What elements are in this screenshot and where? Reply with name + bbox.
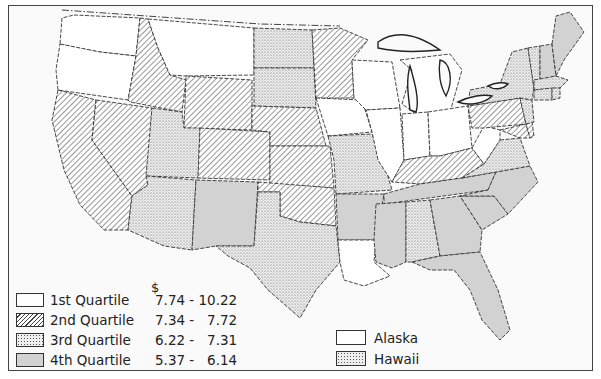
state-CO xyxy=(198,128,270,180)
state-KS xyxy=(270,146,334,188)
legend-label: 3rd Quartile xyxy=(50,332,155,348)
currency-symbol: $ xyxy=(151,280,159,295)
state-WY xyxy=(184,76,252,130)
hatched-swatch-icon xyxy=(16,313,44,327)
legend-label: 2nd Quartile xyxy=(50,312,155,328)
dotted-swatch-icon xyxy=(336,351,366,366)
blank-swatch-icon xyxy=(336,330,366,345)
legend-item-q2: 2nd Quartile 7.34 - 7.72 xyxy=(16,310,237,330)
state-WI xyxy=(352,60,400,110)
dotted-swatch-icon xyxy=(16,333,44,347)
legend-label: Hawaii xyxy=(374,351,419,367)
state-NM xyxy=(192,180,258,250)
blank-swatch-icon xyxy=(16,293,44,307)
state-ND xyxy=(254,28,314,68)
inset-legend: Alaska Hawaii xyxy=(336,327,419,369)
legend-label: Alaska xyxy=(374,330,418,346)
state-MS xyxy=(374,202,406,268)
legend-label: 4th Quartile xyxy=(50,352,155,368)
legend-range: 7.34 - 7.72 xyxy=(155,312,237,328)
state-SD xyxy=(254,68,316,108)
state-OH xyxy=(428,106,472,156)
legend-label: 1st Quartile xyxy=(50,292,155,308)
legend-item-q4: 4th Quartile 5.37 - 6.14 xyxy=(16,350,237,370)
legend-item-alaska: Alaska xyxy=(336,327,419,348)
state-CT xyxy=(534,88,552,100)
legend-item-q3: 3rd Quartile 6.22 - 7.31 xyxy=(16,330,237,350)
state-IN xyxy=(402,112,430,160)
legend-range: 7.74 - 10.22 xyxy=(155,292,237,308)
legend-range: 6.22 - 7.31 xyxy=(155,332,237,348)
state-ME xyxy=(552,12,584,76)
quartile-legend: $ 1st Quartile 7.74 - 10.22 2nd Quartile… xyxy=(16,290,237,370)
state-RI xyxy=(552,88,560,100)
legend-range: 5.37 - 6.14 xyxy=(155,352,237,368)
state-FL xyxy=(412,252,510,340)
legend-item-q1: 1st Quartile 7.74 - 10.22 xyxy=(16,290,237,310)
gray-swatch-icon xyxy=(16,353,44,367)
legend-item-hawaii: Hawaii xyxy=(336,348,419,369)
